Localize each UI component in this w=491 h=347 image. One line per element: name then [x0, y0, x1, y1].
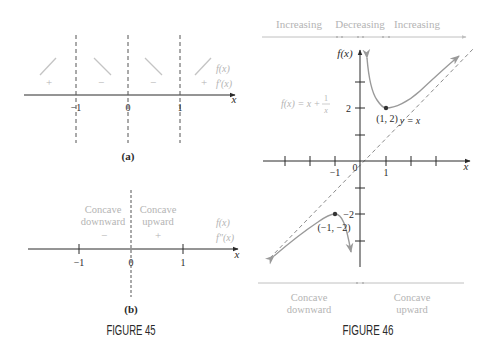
point-label-min: (1, 2): [376, 113, 398, 125]
row-label-f: f(x): [216, 63, 231, 75]
figure-canvas: + − − + f(x) f′(x) x −1 0 1 (a) Concave …: [0, 0, 491, 347]
function-label-denominator: x: [323, 106, 328, 115]
x-axis-label: x: [463, 160, 469, 172]
concave-down-line1: Concave: [291, 292, 328, 303]
concave-up-line1: Concave: [394, 292, 431, 303]
function-label-numerator: 1: [324, 94, 328, 103]
interval-dot: [382, 36, 384, 38]
sign-minus: −: [101, 229, 107, 241]
sign-plus: +: [201, 76, 207, 88]
x-tick-label-1: 1: [384, 167, 389, 178]
interval-label-increasing: Increasing: [276, 18, 322, 30]
tick-label-0: 0: [129, 257, 134, 268]
left-region-line2: downward: [81, 216, 126, 227]
interval-dot: [341, 36, 343, 38]
interval-dot: [336, 36, 338, 38]
x-axis-label: x: [231, 93, 237, 105]
increasing-arrow-icon: [195, 58, 211, 75]
right-region-line1: Concave: [140, 204, 177, 215]
tick-label-1: 1: [178, 102, 183, 113]
figure45-panel-a: + − − + f(x) f′(x) x −1 0 1 (a): [24, 35, 237, 163]
sign-plus: +: [155, 229, 161, 241]
left-region-line1: Concave: [85, 204, 122, 215]
figure45-caption: FIGURE 45: [106, 322, 155, 338]
tick-label-1: 1: [181, 257, 186, 268]
x-tick-label-neg1: −1: [330, 167, 341, 178]
interval-dot: [388, 36, 390, 38]
row-label-fprime: f′(x): [216, 78, 233, 90]
asymptote-line: [270, 48, 474, 258]
panel-label-b: (b): [124, 303, 138, 316]
y-tick-label-2: 2: [346, 103, 351, 114]
concave-down-line2: downward: [287, 304, 332, 315]
point-min: [384, 106, 388, 110]
interval-label-increasing: Increasing: [394, 18, 440, 30]
row-label-f: f(x): [216, 217, 231, 229]
interval-dot: [362, 36, 364, 38]
tick-label-neg1: −1: [71, 102, 82, 113]
decreasing-arrow-icon: [145, 58, 162, 75]
curve-positive-branch: [367, 56, 459, 108]
right-region-line2: upward: [142, 216, 174, 227]
asymptote-label: y = x: [399, 115, 421, 126]
y-tick-label-neg2: −2: [343, 209, 354, 220]
interval-label-decreasing: Decreasing: [335, 18, 385, 30]
figure46: Increasing Decreasing Increasing f(x) x: [258, 18, 474, 315]
tick-label-neg1: −1: [74, 257, 85, 268]
y-axis-label: f(x): [337, 47, 353, 60]
sign-minus: −: [98, 76, 104, 88]
figure46-caption: FIGURE 46: [343, 322, 394, 338]
sign-plus: +: [46, 76, 52, 88]
curve-negative-branch: [274, 214, 351, 256]
x-axis-label: x: [234, 248, 240, 260]
interval-dot: [356, 282, 358, 284]
interval-dot: [362, 282, 364, 284]
decreasing-arrow-icon: [94, 58, 111, 75]
tick-label-0: 0: [126, 102, 131, 113]
sign-minus: −: [150, 76, 156, 88]
increasing-arrow-icon: [40, 58, 56, 75]
figure45-panel-b: Concave downward − Concave upward + f(x)…: [28, 190, 240, 316]
concave-up-line2: upward: [396, 304, 428, 315]
row-label-fsecond: f″(x): [216, 232, 235, 244]
function-label: f(x) = x +: [281, 98, 320, 110]
interval-dot: [357, 36, 359, 38]
point-label-max: (−1, −2): [318, 222, 351, 234]
origin-label: 0: [353, 162, 358, 173]
point-max: [333, 212, 337, 216]
panel-label-a: (a): [122, 150, 135, 163]
